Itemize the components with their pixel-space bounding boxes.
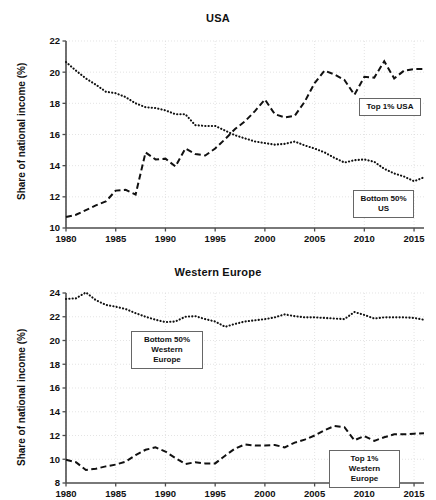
x-tick-label: 1985 [105, 488, 127, 499]
x-tick-label: 2015 [403, 233, 425, 244]
y-tick-label: 22 [49, 311, 60, 322]
y-tick-label: 16 [49, 129, 60, 140]
x-tick-label: 1980 [55, 488, 76, 499]
y-tick-label: 20 [49, 67, 60, 78]
y-tick-label: 14 [49, 160, 60, 171]
x-tick-label: 2000 [254, 233, 275, 244]
y-tick-label: 10 [49, 222, 60, 233]
y-tick-label: 12 [49, 430, 60, 441]
x-tick-label: 1985 [105, 233, 127, 244]
series-line-bottom-50-us [66, 62, 424, 181]
y-tick-label: 22 [49, 35, 60, 46]
x-tick-label: 2015 [403, 488, 425, 499]
series-line-bottom-50-western-europe [66, 292, 424, 326]
y-tick-label: 8 [55, 477, 60, 488]
x-tick-label: 1990 [155, 233, 176, 244]
x-tick-label: 2010 [354, 233, 375, 244]
x-tick-label: 1995 [205, 488, 227, 499]
figure-two-panel-income-share: USA Share of national income (%) 1012141… [0, 0, 436, 500]
y-tick-label: 18 [49, 359, 60, 370]
x-tick-label: 1990 [155, 488, 176, 499]
series-annotation-label: Bottom 50% US [353, 190, 414, 218]
x-tick-label: 1995 [205, 233, 227, 244]
y-tick-label: 12 [49, 191, 60, 202]
x-tick-label: 2010 [354, 488, 375, 499]
y-tick-label: 24 [49, 287, 60, 298]
plot-area-usa: 1012141618202219801985199019952000200520… [0, 0, 436, 258]
series-annotation-label: Top 1% USA [359, 98, 421, 116]
y-tick-label: 10 [49, 454, 60, 465]
y-tick-label: 18 [49, 98, 60, 109]
chart-panel-western-europe: Western Europe Share of national income … [0, 258, 436, 500]
chart-panel-usa: USA Share of national income (%) 1012141… [0, 0, 436, 258]
y-tick-label: 14 [49, 406, 60, 417]
x-tick-label: 1980 [55, 233, 76, 244]
series-annotation-label: Top 1% Western Europe [329, 450, 400, 488]
x-tick-label: 2005 [304, 233, 326, 244]
series-annotation-label: Bottom 50% Western Europe [131, 331, 203, 369]
y-tick-label: 20 [49, 335, 60, 346]
y-tick-label: 16 [49, 382, 60, 393]
x-tick-label: 2005 [304, 488, 326, 499]
x-tick-label: 2000 [254, 488, 275, 499]
